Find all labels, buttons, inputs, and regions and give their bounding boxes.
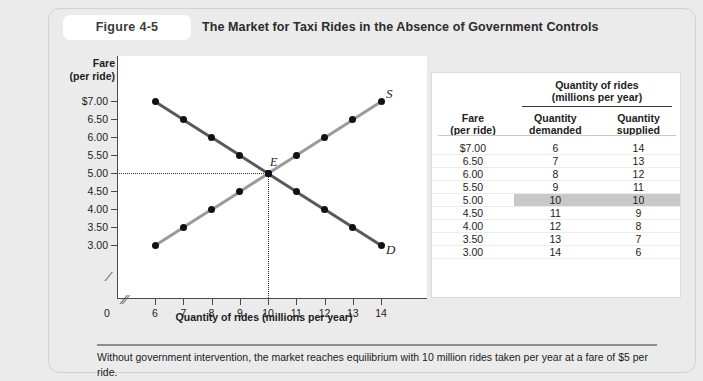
cell-quantity-demanded: 14 bbox=[514, 246, 597, 259]
data-point-d bbox=[152, 98, 159, 105]
figure-header: Figure 4-5 The Market for Taxi Rides in … bbox=[49, 9, 695, 45]
span-header-quantity-of-rides: Quantity of rides (millions per year) bbox=[514, 73, 680, 109]
span-header-title: Quantity of rides bbox=[555, 79, 638, 91]
data-point-s bbox=[236, 188, 243, 195]
x-axis-tick bbox=[155, 298, 156, 305]
y-axis-title: Fare (per ride) bbox=[59, 57, 115, 82]
cell-fare: $7.00 bbox=[432, 142, 514, 155]
chart: Fare (per ride) 3.003.504.004.505.005.50… bbox=[59, 47, 429, 325]
table-row: 3.00146 bbox=[432, 246, 680, 259]
y-axis-tick bbox=[111, 101, 118, 102]
x-axis-break-icon: ⁄⁄ bbox=[123, 292, 127, 307]
table-row: 6.00812 bbox=[432, 168, 680, 181]
cell-fare: 5.00 bbox=[432, 194, 514, 207]
equilibrium-price-guide bbox=[117, 173, 268, 174]
table-row: 5.001010 bbox=[432, 194, 680, 207]
y-axis-break-icon: ⁄ bbox=[108, 269, 110, 284]
span-header-units: (millions per year) bbox=[552, 91, 642, 103]
data-point-s bbox=[180, 224, 187, 231]
data-point-d bbox=[236, 152, 243, 159]
table-row: 6.50713 bbox=[432, 155, 680, 168]
cell-quantity-supplied: 13 bbox=[597, 155, 680, 168]
data-table: Quantity of rides (millions per year) Fa… bbox=[431, 72, 681, 298]
y-axis-tick-label: 6.00 bbox=[59, 131, 108, 143]
cell-quantity-supplied: 11 bbox=[597, 181, 680, 194]
cell-quantity-demanded: 6 bbox=[514, 142, 597, 155]
y-axis-tick bbox=[111, 119, 118, 120]
table-row: 3.50137 bbox=[432, 233, 680, 246]
data-point-d bbox=[208, 134, 215, 141]
x-axis-tick bbox=[353, 298, 354, 305]
column-header-fare-main: Fare bbox=[462, 112, 484, 124]
x-axis-tick bbox=[183, 298, 184, 305]
cell-quantity-supplied: 14 bbox=[597, 142, 680, 155]
column-header-quantity-supplied: Quantity supplied bbox=[597, 109, 680, 142]
y-axis-tick bbox=[111, 245, 118, 246]
figure-panel: Figure 4-5 The Market for Taxi Rides in … bbox=[48, 8, 696, 373]
table-row: $7.00614 bbox=[432, 142, 680, 155]
column-header-fare: Fare (per ride) bbox=[432, 109, 514, 142]
data-point-s bbox=[152, 242, 159, 249]
data-point-s bbox=[293, 152, 300, 159]
y-axis-tick bbox=[111, 137, 118, 138]
data-point-d bbox=[349, 224, 356, 231]
equilibrium-point bbox=[265, 170, 272, 177]
cell-fare: 6.00 bbox=[432, 168, 514, 181]
table-row: 4.50119 bbox=[432, 207, 680, 220]
cell-fare: 4.00 bbox=[432, 220, 514, 233]
caption-rule bbox=[97, 344, 657, 346]
y-axis-tick bbox=[111, 191, 118, 192]
data-point-d bbox=[293, 188, 300, 195]
cell-quantity-demanded: 13 bbox=[514, 233, 597, 246]
x-axis-tick bbox=[296, 298, 297, 305]
cell-quantity-demanded: 9 bbox=[514, 181, 597, 194]
cell-quantity-demanded: 10 bbox=[514, 194, 597, 207]
data-point-d bbox=[321, 206, 328, 213]
curve-label-d: D bbox=[386, 242, 395, 258]
y-axis-tick-label: 5.50 bbox=[59, 149, 108, 161]
y-axis-title-main: Fare bbox=[93, 57, 115, 69]
data-point-s bbox=[378, 98, 385, 105]
cell-fare: 5.50 bbox=[432, 181, 514, 194]
column-header-quantity-demanded: Quantity demanded bbox=[514, 109, 597, 142]
y-axis-title-sub: (per ride) bbox=[69, 70, 115, 82]
y-axis-tick-label: 3.00 bbox=[59, 239, 108, 251]
x-axis-tick bbox=[268, 298, 269, 305]
y-axis-tick-label: 4.00 bbox=[59, 203, 108, 215]
data-point-d bbox=[180, 116, 187, 123]
figure-title: The Market for Taxi Rides in the Absence… bbox=[202, 15, 599, 40]
y-axis-line bbox=[117, 56, 118, 299]
cell-quantity-supplied: 6 bbox=[597, 246, 680, 259]
y-axis-tick bbox=[111, 227, 118, 228]
data-point-s bbox=[321, 134, 328, 141]
cell-quantity-supplied: 10 bbox=[597, 194, 680, 207]
x-axis-title: Quantity of rides (millions per year) bbox=[99, 311, 429, 323]
cell-quantity-demanded: 7 bbox=[514, 155, 597, 168]
span-header-spacer bbox=[432, 73, 514, 109]
table-span-header-row: Quantity of rides (millions per year) bbox=[432, 73, 680, 109]
y-axis-tick-label: 6.50 bbox=[59, 113, 108, 125]
y-axis-tick-label: $7.00 bbox=[59, 95, 108, 107]
cell-fare: 4.50 bbox=[432, 207, 514, 220]
figure-caption: Without government intervention, the mar… bbox=[97, 350, 659, 380]
cell-quantity-demanded: 11 bbox=[514, 207, 597, 220]
schedule-table: Quantity of rides (millions per year) Fa… bbox=[432, 73, 680, 259]
figure-number: Figure 4-5 bbox=[63, 15, 191, 40]
cell-quantity-supplied: 12 bbox=[597, 168, 680, 181]
cell-quantity-supplied: 7 bbox=[597, 233, 680, 246]
table-row: 4.00128 bbox=[432, 220, 680, 233]
table-body: $7.006146.507136.008125.509115.0010104.5… bbox=[432, 142, 680, 259]
y-axis-tick-label: 4.50 bbox=[59, 185, 108, 197]
y-axis-tick bbox=[111, 155, 118, 156]
column-header-demanded-main: Quantity bbox=[534, 112, 577, 124]
y-axis-tick-label: 5.00 bbox=[59, 167, 108, 179]
table-header-rule bbox=[438, 135, 676, 136]
equilibrium-label: E bbox=[270, 155, 277, 170]
data-point-s bbox=[208, 206, 215, 213]
cell-fare: 3.50 bbox=[432, 233, 514, 246]
curve-label-s: S bbox=[386, 86, 393, 102]
x-axis-tick bbox=[381, 298, 382, 305]
cell-quantity-supplied: 9 bbox=[597, 207, 680, 220]
x-axis-tick bbox=[325, 298, 326, 305]
cell-quantity-demanded: 8 bbox=[514, 168, 597, 181]
